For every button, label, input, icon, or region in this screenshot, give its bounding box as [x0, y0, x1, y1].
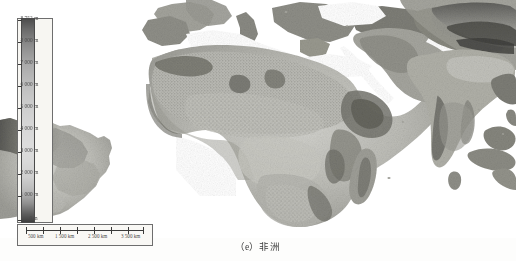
colorbar-tick-label: 8 000 m — [20, 38, 38, 44]
colorbar-tick-label: 0 m — [30, 216, 38, 222]
colorbar-tick-label: 3 000 m — [20, 148, 38, 154]
elevation-map — [0, 0, 516, 238]
colorbar-tick-label: 2 000 m — [20, 170, 38, 176]
figure-panel: 8 752 m 8 000 m 7 000 m 6 000 m 5 000 m … — [0, 0, 516, 261]
colorbar-tick-label: 4 000 m — [20, 126, 38, 132]
scalebar-axis — [26, 230, 144, 231]
caption-title: 非洲 — [259, 242, 281, 252]
caption-index: （e） — [235, 242, 259, 252]
colorbar-tick-label: 5 000 m — [20, 104, 38, 110]
colorbar-tick-labels: 8 752 m 8 000 m 7 000 m 6 000 m 5 000 m … — [14, 14, 38, 228]
colorbar-tick-label: 6 000 m — [20, 82, 38, 88]
colorbar-tick-label: 8 752 m — [20, 16, 38, 22]
figure-caption: （e）非洲 — [0, 239, 516, 253]
colorbar-tick-label: 7 000 m — [20, 60, 38, 66]
colorbar-tick-label: 1 000 m — [20, 192, 38, 198]
